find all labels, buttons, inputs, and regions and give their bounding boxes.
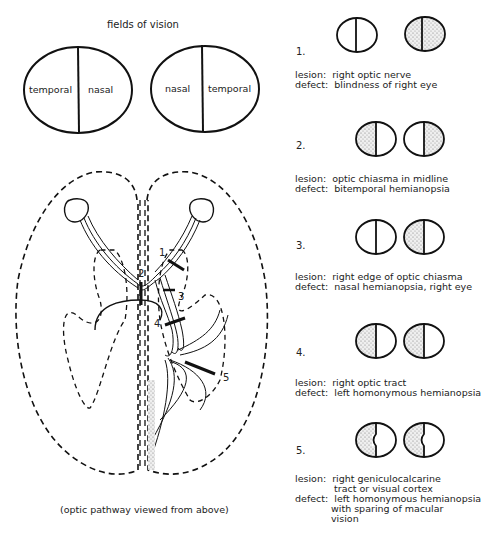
right-eye-temporal-label: temporal bbox=[208, 84, 251, 94]
entry-number-3: 3. bbox=[296, 240, 306, 251]
right-hemisphere-outline bbox=[147, 172, 267, 474]
lesion-bar-5 bbox=[185, 362, 215, 374]
pathway-caption: (optic pathway viewed from above) bbox=[60, 505, 229, 515]
left-eye-temporal-label: temporal bbox=[29, 85, 72, 95]
right-eyeball bbox=[190, 199, 214, 222]
fields-of-vision-title: fields of vision bbox=[107, 20, 179, 30]
entry-5-defect-line3: vision bbox=[331, 514, 359, 524]
field-pair-5 bbox=[356, 423, 444, 457]
entry-2-defect: defect: bitemporal hemianopsia bbox=[295, 184, 450, 194]
pathway-marker-2: 2 bbox=[138, 268, 144, 279]
right-eye-nasal-label: nasal bbox=[165, 84, 190, 94]
left-hemisphere-outline bbox=[16, 172, 138, 474]
left-eye-nasal-label: nasal bbox=[88, 85, 113, 95]
pathway-marker-4: 4 bbox=[154, 318, 160, 329]
visual-cortex-stipple bbox=[148, 380, 155, 470]
field-pair-2 bbox=[356, 122, 444, 156]
entry-number-5: 5. bbox=[296, 445, 306, 456]
entry-1-defect: defect: blindness of right eye bbox=[295, 80, 437, 90]
field-pair-1 bbox=[337, 17, 445, 52]
pathway-marker-5: 5 bbox=[223, 372, 229, 383]
entry-number-1: 1. bbox=[296, 46, 306, 57]
field-pair-3 bbox=[356, 220, 444, 254]
pathway-marker-1: 1 bbox=[159, 247, 165, 258]
optic-pathway-diagram bbox=[16, 172, 267, 474]
pathway-marker-3: 3 bbox=[178, 291, 184, 302]
entry-3-defect: defect: nasal hemianopsia, right eye bbox=[295, 282, 472, 292]
entry-4-defect: defect: left homonymous hemianopsia bbox=[295, 388, 481, 398]
field-pair-4 bbox=[356, 324, 444, 358]
entry-number-4: 4. bbox=[296, 347, 306, 358]
entry-number-2: 2. bbox=[296, 140, 306, 151]
